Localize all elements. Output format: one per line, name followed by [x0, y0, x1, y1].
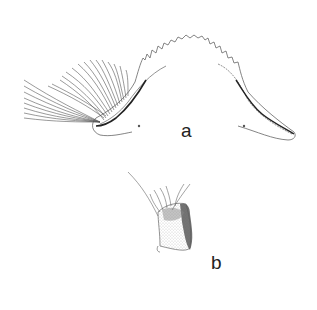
panel-a-drawing [93, 35, 296, 140]
setae-fringe [24, 60, 128, 122]
panel-label-b: b [211, 253, 222, 272]
panel-label-a: a [181, 121, 192, 140]
panel-b-drawing [128, 172, 192, 252]
scientific-illustration [0, 0, 317, 310]
